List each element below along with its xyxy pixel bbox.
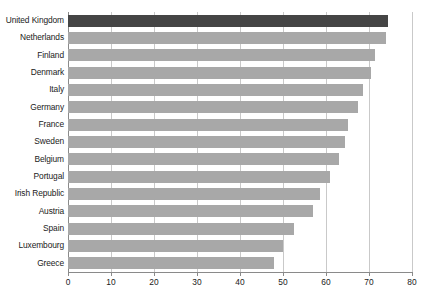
gridline-80 — [412, 12, 413, 272]
bar-row — [68, 168, 412, 185]
bar-germany — [68, 101, 358, 113]
bar-luxembourg — [68, 240, 283, 252]
bar-row — [68, 185, 412, 202]
bar-united-kingdom — [68, 15, 388, 27]
category-label-germany: Germany — [0, 99, 64, 116]
tick-label-50: 50 — [278, 277, 287, 287]
bar-row — [68, 29, 412, 46]
tick-label-20: 20 — [149, 277, 158, 287]
bar-row — [68, 12, 412, 29]
tick-mark-20 — [154, 272, 155, 276]
category-label-portugal: Portugal — [0, 168, 64, 185]
bar-belgium — [68, 153, 339, 165]
tick-label-60: 60 — [321, 277, 330, 287]
bar-row — [68, 203, 412, 220]
category-label-austria: Austria — [0, 203, 64, 220]
bar-sweden — [68, 136, 345, 148]
bar-row — [68, 81, 412, 98]
tick-mark-0 — [68, 272, 69, 276]
bar-greece — [68, 257, 274, 269]
category-label-italy: Italy — [0, 81, 64, 98]
tick-mark-60 — [326, 272, 327, 276]
bar-finland — [68, 49, 375, 61]
tick-mark-10 — [111, 272, 112, 276]
bar-row — [68, 220, 412, 237]
tick-mark-30 — [197, 272, 198, 276]
category-label-denmark: Denmark — [0, 64, 64, 81]
category-label-belgium: Belgium — [0, 151, 64, 168]
tick-mark-80 — [412, 272, 413, 276]
bar-row — [68, 237, 412, 254]
tick-label-40: 40 — [235, 277, 244, 287]
bar-netherlands — [68, 32, 386, 44]
category-label-france: France — [0, 116, 64, 133]
category-label-spain: Spain — [0, 220, 64, 237]
category-label-sweden: Sweden — [0, 133, 64, 150]
category-label-greece: Greece — [0, 255, 64, 272]
category-axis-labels: United KingdomNetherlandsFinlandDenmarkI… — [0, 12, 64, 272]
category-label-finland: Finland — [0, 47, 64, 64]
bar-chart: United KingdomNetherlandsFinlandDenmarkI… — [0, 0, 431, 298]
bar-irish-republic — [68, 188, 320, 200]
bar-rows — [68, 12, 412, 272]
bar-france — [68, 119, 348, 131]
category-label-netherlands: Netherlands — [0, 29, 64, 46]
bar-row — [68, 255, 412, 272]
category-label-united-kingdom: United Kingdom — [0, 12, 64, 29]
tick-label-10: 10 — [106, 277, 115, 287]
bar-row — [68, 99, 412, 116]
plot-area — [68, 12, 412, 272]
tick-label-70: 70 — [364, 277, 373, 287]
bar-denmark — [68, 67, 371, 79]
bar-portugal — [68, 171, 330, 183]
bar-row — [68, 151, 412, 168]
tick-label-30: 30 — [192, 277, 201, 287]
category-label-irish-republic: Irish Republic — [0, 185, 64, 202]
tick-label-80: 80 — [407, 277, 416, 287]
tick-label-0: 0 — [66, 277, 71, 287]
category-label-luxembourg: Luxembourg — [0, 237, 64, 254]
bar-spain — [68, 223, 294, 235]
bar-row — [68, 116, 412, 133]
tick-mark-70 — [369, 272, 370, 276]
x-axis-tick-marks — [68, 272, 413, 276]
bar-austria — [68, 205, 313, 217]
x-axis-tick-labels: 01020304050607080 — [0, 277, 431, 289]
tick-mark-50 — [283, 272, 284, 276]
bar-row — [68, 47, 412, 64]
bar-row — [68, 133, 412, 150]
bar-row — [68, 64, 412, 81]
bar-italy — [68, 84, 363, 96]
tick-mark-40 — [240, 272, 241, 276]
